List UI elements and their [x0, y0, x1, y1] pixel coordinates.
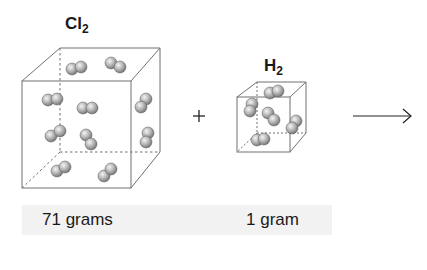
- cl2-mass-label: 71 grams: [42, 210, 113, 230]
- plus-sign: [193, 110, 205, 122]
- cl2-cube-hidden-edges: [22, 48, 160, 188]
- cl2-molecule: [77, 102, 98, 114]
- cl2-molecule: [66, 61, 87, 75]
- h2-molecule: [286, 115, 302, 134]
- cl2-container-cube: [22, 48, 160, 188]
- h2-molecule: [244, 98, 258, 117]
- h2-molecule: [262, 107, 280, 126]
- cl2-molecule: [98, 163, 117, 182]
- cl2-molecule: [105, 57, 126, 73]
- cl2-molecule: [42, 93, 63, 106]
- cl2-molecule: [80, 129, 97, 150]
- cl2-molecules: [42, 57, 154, 182]
- cl2-molecule: [135, 93, 152, 113]
- cl2-molecule: [51, 161, 71, 177]
- reaction-arrow: [353, 109, 411, 123]
- cl2-molecule: [45, 125, 66, 142]
- h2-mass-label: 1 gram: [246, 210, 299, 230]
- cl2-molecule: [140, 127, 154, 148]
- h2-molecule: [251, 133, 270, 146]
